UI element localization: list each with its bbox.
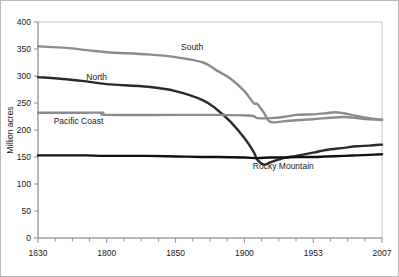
x-tick-label: 1800: [97, 248, 116, 258]
forest-area-line-chart: 0501001502002503003504001630180018501900…: [0, 0, 399, 277]
y-tick-label: 50: [22, 206, 32, 216]
series-line-south: [38, 46, 382, 122]
x-tick-label: 1900: [235, 248, 254, 258]
x-tick-label: 2007: [373, 248, 392, 258]
series-line-rocky-mountain: [38, 154, 382, 158]
y-tick-label: 150: [17, 152, 31, 162]
series-label-south: South: [181, 42, 203, 52]
y-tick-label: 100: [17, 179, 31, 189]
y-tick-label: 350: [17, 44, 31, 54]
plot-frame: [38, 22, 382, 238]
series-label-rocky-mountain: Rocky Mountain: [253, 161, 314, 171]
x-tick-label: 1630: [29, 248, 48, 258]
x-tick-label: 1850: [166, 248, 185, 258]
y-tick-label: 0: [26, 233, 31, 243]
y-tick-label: 400: [17, 17, 31, 27]
series-label-north: North: [86, 72, 107, 82]
y-tick-label: 200: [17, 125, 31, 135]
x-tick-label: 1953: [304, 248, 323, 258]
y-axis-title: Million acres: [5, 106, 15, 153]
y-tick-label: 300: [17, 71, 31, 81]
y-tick-label: 250: [17, 98, 31, 108]
chart-canvas: 0501001502002503003504001630180018501900…: [0, 0, 399, 277]
series-label-pacific-coast: Pacific Coast: [54, 116, 104, 126]
